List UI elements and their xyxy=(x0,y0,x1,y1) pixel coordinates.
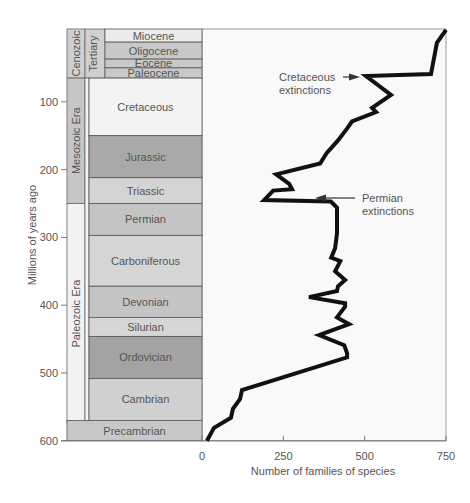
extinction-chart: CenozoicMesozoic EraPaleozoic EraTertiar… xyxy=(0,0,470,503)
era-label: Mesozoic Era xyxy=(70,107,82,175)
period-label: Precambrian xyxy=(103,425,165,437)
y-axis-title: Millions of years ago xyxy=(26,185,38,285)
period-gutter xyxy=(85,78,89,420)
y-tick-label: 500 xyxy=(40,367,58,379)
y-tick-label: 600 xyxy=(40,435,58,447)
x-tick-label: 500 xyxy=(355,450,373,462)
period-label: Triassic xyxy=(127,185,165,197)
x-tick-label: 250 xyxy=(274,450,292,462)
period-label: Ordovician xyxy=(119,351,172,363)
y-tick-label: 200 xyxy=(40,164,58,176)
period-label: Carboniferous xyxy=(111,255,181,267)
geologic-time-scale: CenozoicMesozoic EraPaleozoic EraTertiar… xyxy=(67,29,202,441)
cretaceous-annotation-line2: extinctions xyxy=(279,84,331,96)
x-tick-label: 750 xyxy=(437,450,455,462)
period-label: Jurassic xyxy=(125,151,166,163)
y-tick-label: 100 xyxy=(40,96,58,108)
period-label: Miocene xyxy=(133,30,175,42)
y-tick-label: 400 xyxy=(40,299,58,311)
x-axis-title: Number of families of species xyxy=(251,465,396,477)
period-label: Devonian xyxy=(122,296,168,308)
period-label: Cambrian xyxy=(122,393,170,405)
period-label: Oligocene xyxy=(129,45,179,57)
period-label: Silurian xyxy=(127,321,164,333)
permian-annotation-line1: Permian xyxy=(362,192,403,204)
cretaceous-annotation-line1: Cretaceous xyxy=(279,71,336,83)
x-tick-label: 0 xyxy=(199,450,205,462)
y-tick-label: 300 xyxy=(40,231,58,243)
era-label: Cenozoic xyxy=(70,30,82,76)
period-label: Cretaceous xyxy=(117,101,174,113)
era-label: Paleozoic Era xyxy=(70,279,82,348)
sub-era-label: Tertiary xyxy=(87,35,99,72)
period-label: Paleocene xyxy=(128,67,180,79)
period-label: Permian xyxy=(125,213,166,225)
permian-annotation-line2: extinctions xyxy=(362,205,414,217)
